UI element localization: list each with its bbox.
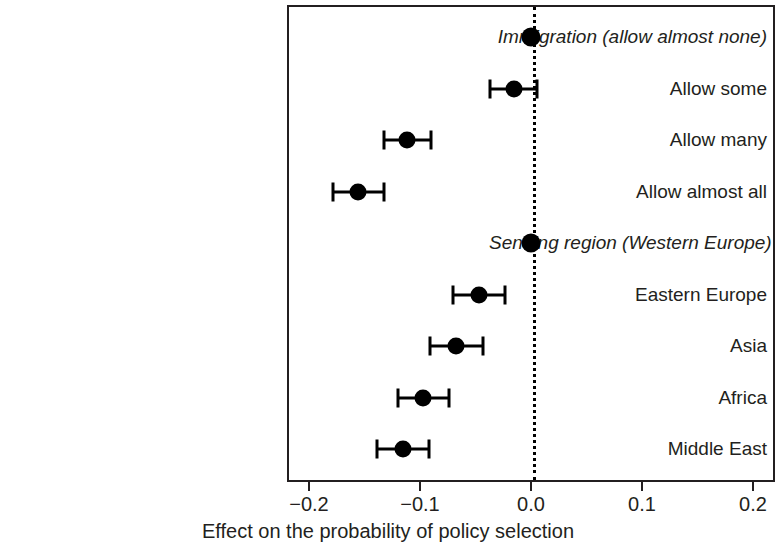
x-tick-label: 0.0	[517, 492, 545, 516]
category-label: Allow almost all	[489, 182, 776, 202]
x-tick-mark	[419, 482, 421, 491]
category-label: Eastern Europe	[489, 285, 776, 305]
x-tick-label: 0.2	[739, 492, 767, 516]
category-label: Middle East	[489, 439, 776, 459]
confidence-interval-cap	[375, 440, 378, 459]
point-estimate-marker	[470, 286, 487, 303]
point-estimate-marker	[398, 132, 415, 149]
x-tick-mark	[308, 482, 310, 491]
confidence-interval-cap	[488, 79, 491, 98]
x-axis-title: Effect on the probability of policy sele…	[0, 519, 776, 543]
confidence-interval-cap	[447, 388, 450, 407]
confidence-interval-cap	[452, 285, 455, 304]
point-estimate-marker	[415, 389, 432, 406]
point-estimate-marker	[349, 183, 366, 200]
coefficient-plot-figure: Immigration (allow almost none)Allow som…	[0, 0, 776, 553]
category-label: Africa	[489, 388, 776, 408]
point-estimate-marker	[506, 80, 523, 97]
confidence-interval-cap	[396, 388, 399, 407]
confidence-interval-cap	[383, 182, 386, 201]
category-label: Asia	[489, 336, 776, 356]
confidence-interval-cap	[482, 337, 485, 356]
category-label: Allow many	[489, 130, 776, 150]
confidence-interval-cap	[427, 440, 430, 459]
confidence-interval-cap	[430, 131, 433, 150]
x-tick-label: −0.1	[400, 492, 439, 516]
confidence-interval-cap	[535, 79, 538, 98]
point-estimate-marker	[522, 234, 541, 253]
confidence-interval-cap	[428, 337, 431, 356]
confidence-interval-cap	[504, 285, 507, 304]
confidence-interval-cap	[332, 182, 335, 201]
confidence-interval-cap	[383, 131, 386, 150]
point-estimate-marker	[522, 28, 541, 47]
x-tick-mark	[530, 482, 532, 491]
x-tick-label: 0.1	[628, 492, 656, 516]
x-tick-mark	[641, 482, 643, 491]
point-estimate-marker	[447, 338, 464, 355]
x-tick-mark	[752, 482, 754, 491]
x-tick-label: −0.2	[289, 492, 328, 516]
point-estimate-marker	[395, 441, 412, 458]
